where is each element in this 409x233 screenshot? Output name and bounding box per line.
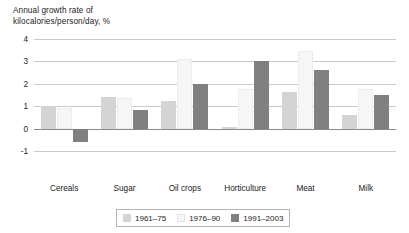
bar-chart: Annual growth rate ofkilocalories/person… bbox=[0, 0, 409, 233]
bar-group bbox=[275, 39, 335, 151]
bar-group bbox=[34, 39, 94, 151]
y-axis-tick-label: 3 bbox=[23, 57, 28, 66]
y-axis-tick-label: 1 bbox=[23, 102, 28, 111]
bar bbox=[57, 108, 72, 128]
y-axis-tick-label: 2 bbox=[23, 79, 28, 88]
y-axis-title-line1: Annual growth rate of bbox=[13, 6, 93, 15]
bar bbox=[133, 110, 148, 129]
bar bbox=[117, 98, 132, 128]
bar bbox=[193, 84, 208, 129]
bar bbox=[161, 101, 176, 129]
legend-item: 1976–90 bbox=[177, 214, 220, 223]
legend-swatch-1991-2003 bbox=[231, 214, 239, 222]
chart-legend: 1961–75 1976–90 1991–2003 bbox=[116, 209, 290, 227]
legend-label-1961-75: 1961–75 bbox=[135, 214, 166, 223]
legend-item: 1991–2003 bbox=[231, 214, 283, 223]
bar-group bbox=[155, 39, 215, 151]
bar bbox=[298, 51, 313, 128]
plot-area: -101234 bbox=[34, 39, 396, 151]
legend-swatch-1961-75 bbox=[123, 214, 131, 222]
bar bbox=[358, 89, 373, 128]
bar bbox=[374, 95, 389, 129]
x-axis-label: Milk bbox=[359, 184, 374, 193]
bar bbox=[238, 89, 253, 128]
x-axis-label: Horticulture bbox=[224, 184, 266, 193]
legend-item: 1961–75 bbox=[123, 214, 166, 223]
bar bbox=[177, 59, 192, 128]
y-axis-tick-label: 0 bbox=[23, 124, 28, 133]
gridline bbox=[34, 151, 396, 152]
y-axis-tick-label: -1 bbox=[21, 147, 28, 156]
bar-group bbox=[215, 39, 275, 151]
bar bbox=[222, 127, 237, 128]
bar bbox=[101, 97, 116, 128]
bar bbox=[314, 70, 329, 128]
legend-swatch-1976-90 bbox=[177, 214, 185, 222]
bar bbox=[342, 115, 357, 128]
bar bbox=[254, 61, 269, 128]
x-axis-label: Meat bbox=[296, 184, 314, 193]
bar bbox=[73, 129, 88, 142]
legend-label-1991-2003: 1991–2003 bbox=[243, 214, 283, 223]
bar-group bbox=[336, 39, 396, 151]
y-axis-tick-label: 4 bbox=[23, 35, 28, 44]
y-axis-title: Annual growth rate ofkilocalories/person… bbox=[13, 6, 110, 27]
x-axis-label: Cereals bbox=[50, 184, 78, 193]
x-axis-label: Oil crops bbox=[169, 184, 201, 193]
x-axis-labels: CerealsSugarOil cropsHorticultureMeatMil… bbox=[34, 184, 396, 196]
bar bbox=[282, 92, 297, 129]
legend-label-1976-90: 1976–90 bbox=[189, 214, 220, 223]
y-axis-title-line2: kilocalories/person/day, % bbox=[13, 17, 110, 26]
bar bbox=[41, 106, 56, 128]
bar-groups bbox=[34, 39, 396, 151]
x-axis-label: Sugar bbox=[114, 184, 136, 193]
bar-group bbox=[94, 39, 154, 151]
